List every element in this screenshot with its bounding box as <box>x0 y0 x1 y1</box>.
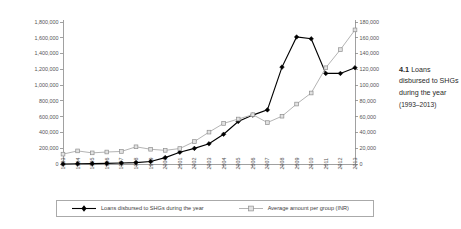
x-axis-tick-label: 2011 <box>323 158 329 170</box>
right-axis-tick-label: 140,000 <box>360 50 380 56</box>
series-loans-disbursed <box>61 35 358 167</box>
x-axis-tick-label: 2005 <box>235 158 241 170</box>
data-point-marker <box>295 102 299 106</box>
left-axis-tick-label: 400,000 <box>39 129 59 135</box>
series-average-amount <box>61 28 357 156</box>
data-point-marker <box>163 149 167 153</box>
x-axis-tick-label: 2006 <box>250 157 256 169</box>
left-axis-tick-label: 1,000,000 <box>35 82 59 88</box>
figure: 0200,000400,000600,000800,0001,000,0001,… <box>0 0 461 229</box>
legend-item-loans-disbursed: Loans disbursed to SHGs during the year <box>71 201 204 216</box>
right-axis-tick-label: 180,000 <box>360 19 380 25</box>
right-axis-tick-label: 160,000 <box>360 35 380 41</box>
data-point-marker <box>353 28 357 32</box>
x-axis-tick-label: 2002 <box>191 158 197 170</box>
left-axis-tick-label: 1,400,000 <box>35 50 59 56</box>
right-axis-tick-label: 0 <box>360 161 363 167</box>
data-point-marker <box>222 122 226 126</box>
data-point-marker <box>105 150 109 154</box>
data-point-marker <box>192 146 197 151</box>
right-axis-tick-label: 120,000 <box>360 66 380 72</box>
legend-marker-filled-diamond <box>71 204 97 213</box>
data-point-marker <box>265 108 270 113</box>
data-point-marker <box>339 48 343 52</box>
right-axis-tick-label: 20,000 <box>360 145 377 151</box>
left-axis-tick-label: 0 <box>56 161 59 167</box>
left-axis-tick-label: 1,800,000 <box>35 19 59 25</box>
right-axis-tick-label: 100,000 <box>360 82 380 88</box>
legend-item-average-amount: Average amount per group (INR) <box>238 201 349 216</box>
chart-legend: Loans disbursed to SHGs during the year … <box>56 200 374 217</box>
data-point-marker <box>178 147 182 151</box>
data-point-marker <box>294 35 299 40</box>
figure-caption: 4.1 Loans disbursed to SHGs during the y… <box>399 64 459 112</box>
left-axis-tick-label: 200,000 <box>39 145 59 151</box>
data-point-marker <box>236 117 240 121</box>
data-point-marker <box>324 66 328 70</box>
data-point-marker <box>134 145 138 149</box>
x-axis-tick-label: 2004 <box>221 158 227 170</box>
caption-number: 4.1 <box>399 65 409 74</box>
chart-plot-area: 0200,000400,000600,000800,0001,000,0001,… <box>0 0 390 229</box>
data-point-marker <box>207 130 211 134</box>
data-point-marker <box>120 150 124 154</box>
legend-label-loans-disbursed: Loans disbursed to SHGs during the year <box>101 206 204 212</box>
x-axis-tick-label: 2008 <box>279 158 285 170</box>
data-point-marker <box>338 71 343 76</box>
caption-range: (1993–2013) <box>399 101 436 108</box>
right-axis-tick-label: 60,000 <box>360 114 377 120</box>
x-axis-tick-label: 2013 <box>352 158 358 170</box>
data-point-marker <box>61 152 65 156</box>
data-point-marker <box>76 149 80 153</box>
data-point-marker <box>280 114 284 118</box>
left-axis-tick-label: 600,000 <box>39 114 59 120</box>
data-point-marker <box>90 151 94 155</box>
data-point-marker <box>251 113 255 117</box>
data-point-marker <box>149 147 153 151</box>
line-chart: 0200,000400,000600,000800,0001,000,0001,… <box>0 0 390 229</box>
x-axis-tick-label: 2012 <box>337 158 343 170</box>
data-point-marker <box>193 140 197 144</box>
data-point-marker <box>280 65 285 70</box>
x-axis-tick-label: 2009 <box>294 158 300 170</box>
left-axis-tick-label: 800,000 <box>39 98 59 104</box>
legend-marker-hollow-square <box>238 204 264 213</box>
x-axis-tick-label: 2010 <box>308 158 314 170</box>
right-axis-tick-label: 40,000 <box>360 129 377 135</box>
left-axis-tick-label: 1,600,000 <box>35 35 59 41</box>
x-axis-tick-label: 2007 <box>264 158 270 170</box>
right-axis-tick-label: 80,000 <box>360 98 377 104</box>
data-point-marker <box>309 91 313 95</box>
x-axis-tick-label: 2003 <box>206 158 212 170</box>
data-point-marker <box>324 71 329 76</box>
data-point-marker <box>309 37 314 42</box>
data-point-marker <box>266 121 270 125</box>
legend-label-average-amount: Average amount per group (INR) <box>268 206 349 212</box>
left-axis-tick-label: 1,200,000 <box>35 66 59 72</box>
x-axis-tick-label: 2001 <box>177 158 183 170</box>
